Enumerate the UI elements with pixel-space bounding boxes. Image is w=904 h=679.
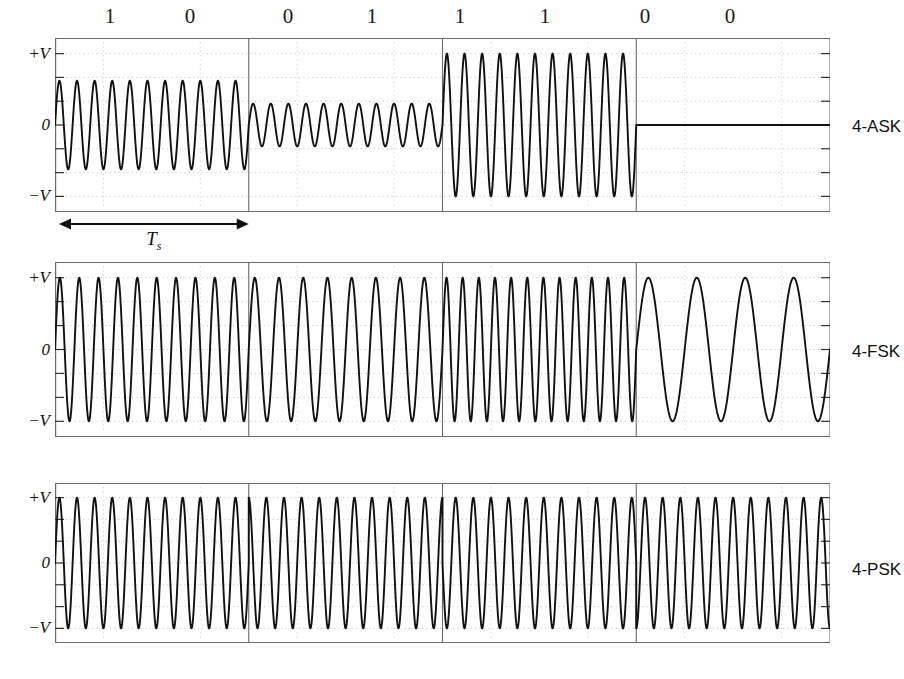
symbol-period-arrow (0, 216, 904, 256)
y-axis-label-ask-1: 0 (2, 115, 50, 135)
bit-label-3: 1 (367, 2, 378, 30)
modulation-label-psk: 4-PSK (852, 560, 901, 580)
modulation-label-fsk: 4-FSK (852, 342, 900, 362)
modulation-figure: 10011100 Ts +V0−V4-ASK+V0−V4-FSK+V0−V4-P… (0, 0, 904, 679)
bit-label-6: 0 (640, 2, 651, 30)
y-axis-label-psk-2: −V (2, 618, 50, 638)
y-axis-label-fsk-1: 0 (2, 340, 50, 360)
modulation-label-ask: 4-ASK (852, 117, 901, 137)
bit-sequence-row: 10011100 (0, 0, 904, 32)
y-axis-label-psk-1: 0 (2, 553, 50, 573)
y-axis-label-ask-2: −V (2, 186, 50, 206)
y-axis-label-ask-0: +V (2, 44, 50, 64)
waveform-plot-psk (55, 483, 830, 643)
bit-label-4: 1 (455, 2, 466, 30)
bit-label-5: 1 (540, 2, 551, 30)
panel-fsk (55, 262, 830, 437)
bit-label-1: 0 (185, 2, 196, 30)
panel-psk (55, 483, 830, 643)
panel-ask (55, 38, 830, 212)
waveform-plot-fsk (55, 262, 830, 437)
y-axis-label-fsk-2: −V (2, 411, 50, 431)
bit-label-2: 0 (283, 2, 294, 30)
waveform-plot-ask (55, 38, 830, 212)
y-axis-label-fsk-0: +V (2, 268, 50, 288)
bit-label-0: 1 (105, 2, 116, 30)
y-axis-label-psk-0: +V (2, 488, 50, 508)
bit-label-7: 0 (725, 2, 736, 30)
